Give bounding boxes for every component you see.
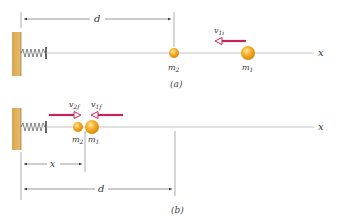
ball-m2-a — [169, 48, 179, 58]
panel-a: x d v1i m2 m1 (a) — [12, 12, 324, 89]
velocity-arrow-a — [215, 38, 222, 45]
mass2-label-a: m2 — [168, 63, 180, 73]
velocity-label-a: v1i — [214, 26, 224, 36]
caption-b: (b) — [171, 205, 184, 215]
ball-m2-b — [73, 122, 83, 132]
mass2-label-b: m2 — [72, 135, 84, 145]
position-label-b: x — [50, 159, 55, 169]
distance-label-a: d — [94, 13, 100, 24]
velocity2-label-b: v2f — [69, 100, 81, 111]
ball-m1-b — [85, 120, 99, 134]
wall-a — [12, 32, 21, 76]
axis-label-b: x — [318, 121, 324, 132]
velocity2-arrow-b — [74, 112, 81, 119]
distance-label-b: d — [98, 183, 104, 194]
panel-b: x v2f v1f m2 m1 x d (b) — [12, 100, 324, 215]
velocity1-arrow-b — [91, 112, 98, 119]
wall-b — [12, 108, 21, 150]
collision-diagram: x d v1i m2 m1 (a) — [0, 0, 338, 224]
spring-icon-a — [21, 47, 46, 59]
velocity1-label-b: v1f — [91, 100, 103, 111]
axis-label-a: x — [318, 47, 324, 58]
mass1-label-a: m1 — [242, 63, 253, 73]
mass1-label-b: m1 — [88, 135, 99, 145]
caption-a: (a) — [170, 79, 183, 89]
ball-m1-a — [241, 46, 255, 60]
spring-icon-b — [21, 121, 46, 133]
